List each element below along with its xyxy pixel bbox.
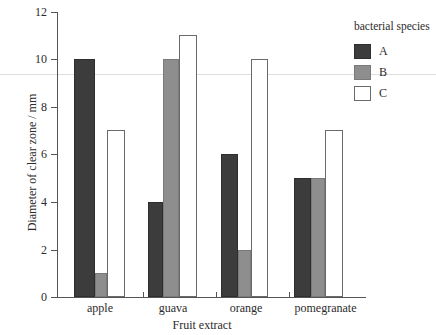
x-axis-line bbox=[57, 297, 366, 298]
y-tick-mark-4 bbox=[51, 202, 57, 203]
x-tick-label-guava: guava bbox=[143, 301, 203, 316]
legend-item-b: B bbox=[354, 62, 436, 83]
y-tick-mark-8 bbox=[51, 107, 57, 108]
y-axis-title: Diameter of clear zone / mm bbox=[25, 63, 40, 263]
bar-pomegranate-b bbox=[311, 178, 325, 297]
legend-title: bacterial species bbox=[354, 20, 436, 32]
x-axis-title: Fruit extract bbox=[57, 318, 347, 333]
legend-label-b: B bbox=[379, 65, 387, 80]
legend-swatch-c-icon bbox=[354, 86, 371, 101]
x-tick-label-apple: apple bbox=[70, 301, 130, 316]
y-tick-mark-10 bbox=[51, 59, 57, 60]
bar-pomegranate-a bbox=[294, 178, 311, 297]
bar-guava-c bbox=[179, 35, 197, 297]
bar-chart-figure: 12 10 8 6 4 2 0 Diameter of clear zone /… bbox=[0, 0, 436, 335]
bar-guava-a bbox=[148, 202, 163, 297]
legend-item-a: A bbox=[354, 41, 436, 62]
bar-orange-c bbox=[251, 59, 268, 297]
x-group-separator-2 bbox=[216, 292, 217, 298]
y-tick-mark-0 bbox=[51, 297, 57, 298]
legend-item-c: C bbox=[354, 83, 436, 104]
y-tick-label-12: 12 bbox=[7, 6, 47, 18]
bar-apple-b bbox=[95, 273, 107, 297]
bar-apple-a bbox=[74, 59, 95, 297]
x-tick-label-orange: orange bbox=[216, 301, 276, 316]
bar-orange-b bbox=[238, 250, 251, 297]
x-group-separator-1 bbox=[143, 292, 144, 298]
y-axis-line bbox=[57, 12, 58, 298]
y-tick-mark-6 bbox=[51, 154, 57, 155]
legend-label-c: C bbox=[379, 86, 387, 101]
legend-swatch-b-icon bbox=[354, 65, 371, 80]
y-tick-mark-2 bbox=[51, 250, 57, 251]
x-group-separator-3 bbox=[289, 292, 290, 298]
legend: bacterial species A B C bbox=[354, 20, 436, 104]
bar-orange-a bbox=[221, 154, 238, 297]
bar-pomegranate-c bbox=[325, 130, 343, 297]
y-tick-label-0: 0 bbox=[7, 291, 47, 303]
x-tick-label-pomegranate: pomegranate bbox=[278, 301, 373, 316]
bar-apple-c bbox=[107, 130, 125, 297]
y-tick-mark-12 bbox=[51, 12, 57, 13]
bar-guava-b bbox=[163, 59, 179, 297]
legend-label-a: A bbox=[379, 44, 388, 59]
legend-swatch-a-icon bbox=[354, 44, 371, 59]
